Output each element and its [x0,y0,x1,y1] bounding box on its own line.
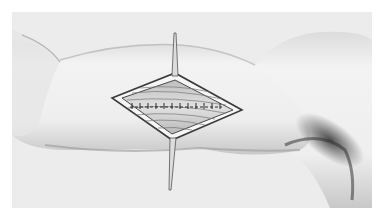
arm-incision-illustration [12,12,372,208]
illustration-frame [12,12,372,208]
